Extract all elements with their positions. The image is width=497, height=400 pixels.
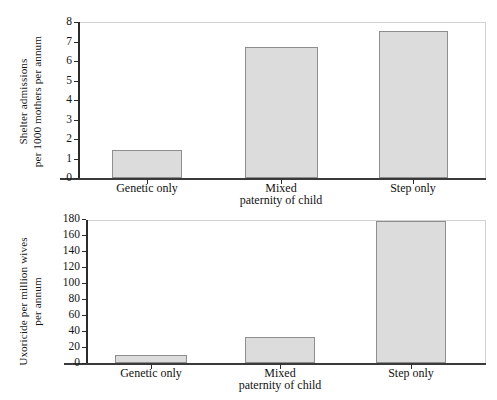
y-axis-line-top: [78, 22, 80, 179]
bar-bottom-genetic-only: [115, 355, 187, 363]
figure-two-panel-bar-charts: Shelter admissions per 1000 mothers per …: [0, 0, 497, 400]
y-tick-label-bottom-60: 60: [52, 309, 80, 321]
y-tick-bottom-120: [82, 267, 86, 268]
y-tick-bottom-160: [82, 235, 86, 236]
y-tick-label-bottom-140: 140: [52, 245, 80, 257]
x-category-label-bottom-genetic-only: Genetic only: [101, 367, 201, 380]
y-tick-top-8: [74, 22, 78, 23]
y-tick-bottom-20: [82, 347, 86, 348]
y-tick-label-bottom-120: 120: [52, 261, 80, 273]
y-tick-bottom-180: [82, 219, 86, 220]
panel-uxoricide: Uxoricide per million wives per annum 18…: [0, 200, 497, 400]
x-category-label-top-genetic-only: Genetic only: [97, 182, 197, 195]
y-axis-title-bottom-line2: per annum: [30, 222, 44, 382]
y-axis-title-bottom-line1: Uxoricide per million wives: [17, 222, 31, 382]
y-tick-label-top-5: 5: [56, 75, 72, 87]
y-tick-top-2: [74, 139, 78, 140]
y-tick-label-bottom-40: 40: [52, 325, 80, 337]
x-axis-line-top: [60, 178, 486, 180]
y-tick-label-top-8: 8: [56, 16, 72, 28]
y-axis-title-top: Shelter admissions per 1000 mothers per …: [17, 22, 44, 182]
y-tick-bottom-60: [82, 315, 86, 316]
y-tick-bottom-80: [82, 299, 86, 300]
y-tick-label-top-4: 4: [56, 94, 72, 106]
y-tick-top-4: [74, 100, 78, 101]
x-axis-title-bottom: paternity of child: [230, 379, 330, 392]
x-category-label-bottom-step-only: Step only: [361, 367, 461, 380]
y-axis-title-bottom: Uxoricide per million wives per annum: [17, 222, 44, 382]
y-tick-bottom-40: [82, 331, 86, 332]
y-tick-label-top-6: 6: [56, 55, 72, 67]
y-tick-label-bottom-0: 0: [52, 357, 80, 369]
panel-shelter-admissions: Shelter admissions per 1000 mothers per …: [0, 0, 497, 200]
y-tick-top-6: [74, 61, 78, 62]
bar-bottom-mixed: [245, 337, 315, 363]
x-axis-line-bottom: [64, 363, 486, 365]
y-axis-title-top-line2: per 1000 mothers per annum: [30, 22, 44, 182]
y-tick-bottom-140: [82, 251, 86, 252]
x-category-label-top-step-only: Step only: [363, 182, 463, 195]
y-tick-top-7: [74, 42, 78, 43]
y-axis-title-top-line1: Shelter admissions: [17, 22, 31, 182]
y-tick-label-top-2: 2: [56, 133, 72, 145]
y-tick-top-5: [74, 81, 78, 82]
y-tick-label-top-3: 3: [56, 114, 72, 126]
y-tick-bottom-100: [82, 283, 86, 284]
y-tick-label-bottom-80: 80: [52, 293, 80, 305]
y-tick-label-top-0: 0: [56, 172, 72, 184]
y-tick-label-bottom-20: 20: [52, 341, 80, 353]
bar-top-mixed: [245, 47, 318, 178]
y-axis-line-bottom: [86, 220, 88, 364]
y-tick-label-top-7: 7: [56, 36, 72, 48]
y-tick-label-top-1: 1: [56, 153, 72, 165]
y-tick-label-bottom-160: 160: [52, 229, 80, 241]
bar-bottom-step-only: [376, 221, 446, 363]
bar-top-genetic-only: [112, 150, 182, 178]
y-tick-top-0: [74, 178, 78, 179]
y-tick-bottom-0: [82, 363, 86, 364]
y-tick-label-bottom-180: 180: [52, 213, 80, 225]
bar-top-step-only: [379, 31, 448, 178]
y-tick-label-bottom-100: 100: [52, 277, 80, 289]
y-tick-top-1: [74, 159, 78, 160]
y-tick-top-3: [74, 120, 78, 121]
